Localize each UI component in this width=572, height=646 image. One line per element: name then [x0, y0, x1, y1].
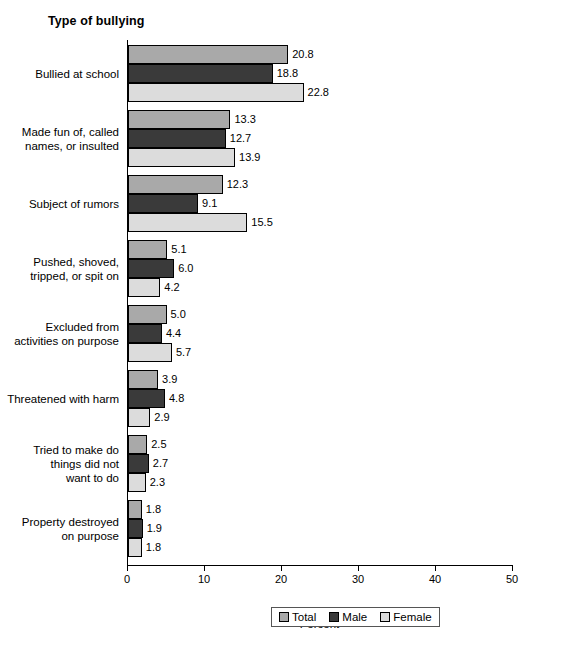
bar-value-label: 2.3 [146, 473, 165, 492]
bar-value-label: 2.9 [150, 408, 169, 427]
chart-title: Type of bullying [48, 14, 145, 28]
bar-group: 20.818.822.8 [128, 45, 513, 102]
bar-value-label: 12.3 [223, 175, 248, 194]
bar-total [128, 240, 167, 259]
x-tick-label-0: 0 [124, 573, 130, 585]
bar-total [128, 175, 223, 194]
bar-value-label: 12.7 [226, 129, 251, 148]
bar-group: 5.16.04.2 [128, 240, 513, 297]
bar-value-label: 9.1 [198, 194, 217, 213]
category-label: Made fun of, called names, or insulted [22, 125, 119, 153]
bar-male [128, 454, 149, 473]
x-tick-label-50: 50 [506, 573, 518, 585]
legend-item-total[interactable]: Total [279, 611, 316, 623]
bar-value-label: 4.2 [160, 278, 179, 297]
bar-female [128, 148, 235, 167]
bar-value-label: 15.5 [247, 213, 272, 232]
bar-female [128, 213, 247, 232]
bar-group: 13.312.713.9 [128, 110, 513, 167]
x-tick-label-10: 10 [198, 573, 210, 585]
bar-value-label: 4.8 [165, 389, 184, 408]
bar-value-label: 3.9 [158, 370, 177, 389]
bar-total [128, 500, 142, 519]
bar-male [128, 64, 273, 83]
category-label: Property destroyed on purpose [22, 515, 119, 543]
x-tick-20 [281, 566, 282, 571]
bar-group: 12.39.115.5 [128, 175, 513, 232]
bar-value-label: 20.8 [288, 45, 313, 64]
category-label: Pushed, shoved, tripped, or spit on [30, 255, 119, 283]
legend-item-female[interactable]: Female [380, 611, 431, 623]
bar-value-label: 5.0 [167, 305, 186, 324]
bullying-bar-chart: Type of bullying Bullied at schoolMade f… [0, 0, 572, 646]
category-label: Excluded from activities on purpose [14, 320, 119, 348]
bar-value-label: 2.7 [149, 454, 168, 473]
legend-label: Total [292, 611, 316, 623]
x-tick-label-40: 40 [429, 573, 441, 585]
legend-label: Male [342, 611, 367, 623]
bar-value-label: 1.8 [142, 538, 161, 557]
bar-value-label: 22.8 [304, 83, 329, 102]
category-label: Subject of rumors [29, 197, 119, 211]
bar-value-label: 6.0 [174, 259, 193, 278]
category-label: Threatened with harm [7, 392, 119, 406]
bar-total [128, 370, 158, 389]
bar-group: 5.04.45.7 [128, 305, 513, 362]
bar-value-label: 1.8 [142, 500, 161, 519]
x-tick-0 [127, 566, 128, 571]
legend-swatch-icon [380, 612, 390, 622]
bar-total [128, 305, 167, 324]
bar-value-label: 13.3 [230, 110, 255, 129]
bar-female [128, 278, 160, 297]
category-label: Bullied at school [35, 67, 119, 81]
bar-value-label: 5.1 [167, 240, 186, 259]
x-tick-50 [512, 566, 513, 571]
bar-value-label: 13.9 [235, 148, 260, 167]
bar-male [128, 129, 226, 148]
bar-value-label: 18.8 [273, 64, 298, 83]
bar-value-label: 5.7 [172, 343, 191, 362]
bar-group: 1.81.91.8 [128, 500, 513, 557]
chart-legend: TotalMaleFemale [271, 607, 440, 627]
bar-total [128, 110, 230, 129]
legend-item-male[interactable]: Male [329, 611, 367, 623]
bar-group: 2.52.72.3 [128, 435, 513, 492]
category-label: Tried to make do things did not want to … [33, 443, 119, 485]
bar-female [128, 473, 146, 492]
bar-female [128, 538, 142, 557]
bar-total [128, 435, 147, 454]
bar-female [128, 408, 150, 427]
bar-male [128, 324, 162, 343]
bar-male [128, 259, 174, 278]
x-tick-10 [204, 566, 205, 571]
bar-male [128, 389, 165, 408]
x-tick-30 [358, 566, 359, 571]
plot-area: 01020304050 20.818.822.813.312.713.912.3… [127, 40, 512, 565]
legend-swatch-icon [279, 612, 289, 622]
bar-group: 3.94.82.9 [128, 370, 513, 427]
bar-total [128, 45, 288, 64]
bar-male [128, 194, 198, 213]
legend-label: Female [393, 611, 431, 623]
x-tick-40 [435, 566, 436, 571]
category-label-column: Bullied at schoolMade fun of, called nam… [0, 40, 119, 565]
x-axis-line [127, 565, 513, 566]
bar-value-label: 4.4 [162, 324, 181, 343]
bar-value-label: 2.5 [147, 435, 166, 454]
x-tick-label-20: 20 [275, 573, 287, 585]
bar-male [128, 519, 143, 538]
bar-female [128, 83, 304, 102]
x-tick-label-30: 30 [352, 573, 364, 585]
legend-swatch-icon [329, 612, 339, 622]
bar-value-label: 1.9 [143, 519, 162, 538]
bar-female [128, 343, 172, 362]
